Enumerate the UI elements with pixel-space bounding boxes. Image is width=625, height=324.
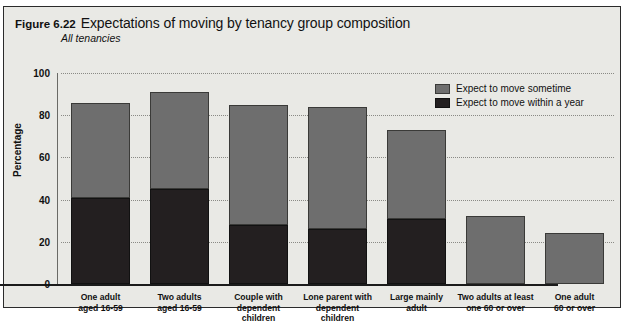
legend-item-within-a-year: Expect to move within a year bbox=[435, 97, 584, 108]
bar-segment-within-year-5[interactable] bbox=[387, 219, 446, 284]
figure-panel: Figure 6.22Expectations of moving by ten… bbox=[3, 6, 621, 308]
bar-segment-within-year-4[interactable] bbox=[308, 229, 367, 284]
x-axis-label-7: One adult 60 or over bbox=[535, 292, 614, 313]
bar-3[interactable] bbox=[229, 105, 288, 284]
x-axis-label-6: Two adults at least one 60 or over bbox=[456, 292, 535, 313]
legend-swatch-sometime bbox=[435, 84, 450, 94]
bar-4[interactable] bbox=[308, 107, 367, 284]
bar-segment-sometime-1[interactable] bbox=[71, 103, 130, 198]
figure-title: Expectations of moving by tenancy group … bbox=[81, 15, 411, 31]
x-axis-label-3: Couple with dependent children bbox=[219, 292, 298, 324]
legend-label-within-a-year: Expect to move within a year bbox=[456, 97, 584, 108]
y-tick-label-40: 40 bbox=[10, 194, 50, 205]
bar-segment-sometime-3[interactable] bbox=[229, 105, 288, 225]
x-axis-line bbox=[0, 284, 558, 286]
bar-6[interactable] bbox=[466, 216, 525, 284]
bar-segment-sometime-4[interactable] bbox=[308, 107, 367, 229]
bar-segment-sometime-5[interactable] bbox=[387, 130, 446, 219]
bar-2[interactable] bbox=[150, 92, 209, 284]
y-tick-label-100: 100 bbox=[10, 68, 50, 79]
legend-item-sometime: Expect to move sometime bbox=[435, 83, 584, 94]
x-axis-label-5: Large mainly adult bbox=[377, 292, 456, 313]
chart-legend: Expect to move sometime Expect to move w… bbox=[435, 83, 584, 111]
x-axis-label-1: One adult aged 16-59 bbox=[61, 292, 140, 313]
figure-number: Figure 6.22 bbox=[15, 18, 76, 30]
bar-segment-sometime-7[interactable] bbox=[545, 233, 604, 284]
bar-segment-sometime-6[interactable] bbox=[466, 216, 525, 284]
bar-segment-within-year-1[interactable] bbox=[71, 198, 130, 285]
legend-label-sometime: Expect to move sometime bbox=[456, 83, 571, 94]
bar-1[interactable] bbox=[71, 103, 130, 284]
figure-heading: Figure 6.22Expectations of moving by ten… bbox=[15, 14, 410, 32]
bar-segment-within-year-3[interactable] bbox=[229, 225, 288, 284]
bar-segment-within-year-2[interactable] bbox=[150, 189, 209, 284]
bar-7[interactable] bbox=[545, 233, 604, 284]
y-tick-label-0: 0 bbox=[10, 279, 50, 290]
gridline-100 bbox=[61, 73, 614, 74]
y-tick-label-80: 80 bbox=[10, 110, 50, 121]
x-axis-label-2: Two adults aged 16-59 bbox=[140, 292, 219, 313]
bar-segment-sometime-2[interactable] bbox=[150, 92, 209, 189]
bar-5[interactable] bbox=[387, 130, 446, 284]
y-axis-label: Percentage bbox=[12, 123, 23, 177]
legend-swatch-within-a-year bbox=[435, 98, 450, 108]
y-axis-line bbox=[57, 73, 58, 286]
y-tick-label-60: 60 bbox=[10, 152, 50, 163]
y-tick-label-20: 20 bbox=[10, 236, 50, 247]
figure-subtitle: All tenancies bbox=[61, 32, 121, 44]
x-axis-label-4: Lone parent with dependent children bbox=[298, 292, 377, 324]
